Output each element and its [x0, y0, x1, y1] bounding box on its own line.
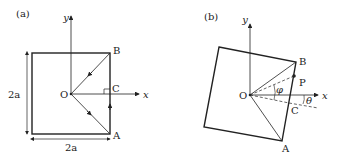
panel-a-tag: (a)	[16, 8, 30, 19]
b-label-b: B	[299, 56, 306, 67]
diagram: (a) y x O B A C 2a 2a (b) y	[0, 0, 340, 160]
width-label: 2a	[65, 142, 77, 153]
a-label-a: A	[112, 130, 121, 141]
y-label-b: y	[241, 14, 248, 25]
point-p-dot	[292, 74, 296, 78]
line-oc-dashed	[250, 95, 289, 103]
phi-label: φ	[276, 84, 283, 95]
panel-a: (a) y x O B A C 2a 2a	[8, 8, 149, 153]
y-label-a: y	[62, 12, 69, 23]
b-label-a: B	[113, 45, 120, 56]
c-label-a: C	[112, 83, 120, 94]
x-label-b: x	[322, 90, 328, 101]
height-label: 2a	[8, 89, 20, 100]
line-ob-b	[250, 62, 296, 95]
panel-b: (b) y x O B P C A φ θ	[204, 11, 328, 154]
panel-b-tag: (b)	[204, 11, 218, 22]
theta-label: θ	[306, 95, 312, 106]
a-label-b: A	[281, 143, 290, 154]
origin-label-a: O	[60, 89, 68, 100]
c-label-b: C	[291, 105, 299, 116]
origin-dot-b	[249, 94, 252, 97]
phi-arc	[274, 85, 275, 100]
origin-label-b: O	[239, 90, 247, 101]
theta-arc	[303, 95, 304, 104]
right-angle-mark	[104, 89, 110, 94]
arrow-o-to-a	[87, 111, 91, 115]
line-oa-b	[250, 95, 282, 141]
x-label-a: x	[143, 89, 149, 100]
origin-dot-a	[70, 93, 73, 96]
p-label: P	[299, 77, 306, 88]
arrow-b-to-o	[88, 72, 92, 76]
